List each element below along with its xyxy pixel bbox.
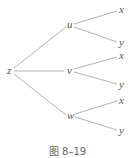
node-u-y: y [119,37,124,48]
edge-u-x [74,11,117,24]
edge-w-y [75,117,117,130]
node-v: v [67,65,72,76]
node-z: z [7,65,11,76]
edge-v-x [74,57,117,69]
edge-v-y [74,72,117,84]
node-u-x: x [119,4,124,15]
edge-z-u [14,27,66,68]
node-w-x: x [119,95,124,106]
node-v-y: y [119,79,124,90]
edge-w-x [75,101,117,114]
node-w: w [67,110,74,121]
edge-u-y [74,27,117,42]
node-w-y: y [119,125,124,136]
node-u: u [67,19,73,30]
node-v-x: x [119,50,124,61]
figure-caption: 图 8–19 [0,143,135,158]
edge-z-w [14,74,66,115]
